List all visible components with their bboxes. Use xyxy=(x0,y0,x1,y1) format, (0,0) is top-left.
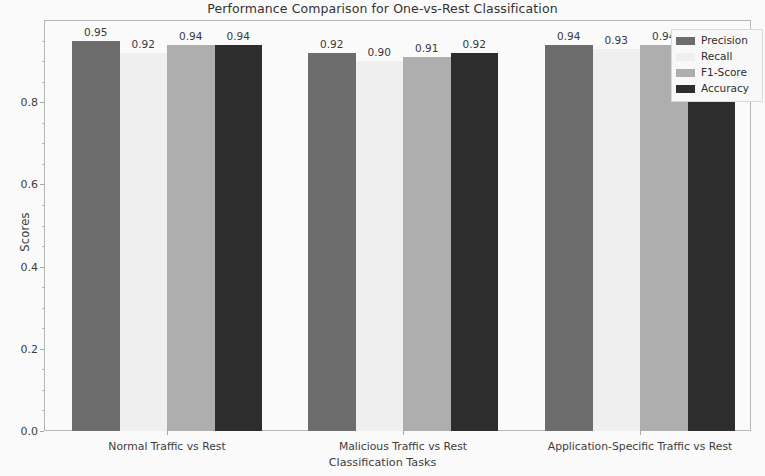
x-axis-tick-label: Normal Traffic vs Rest xyxy=(108,440,225,453)
legend-item[interactable]: Accuracy xyxy=(676,81,758,96)
legend-swatch-icon xyxy=(676,53,695,61)
bar xyxy=(451,53,499,431)
y-axis-tick-label: 0.6 xyxy=(0,178,38,191)
legend-item[interactable]: Precision xyxy=(676,33,758,48)
y-axis-tick-mark xyxy=(40,431,44,432)
bar xyxy=(167,45,215,431)
bar-value-label: 0.93 xyxy=(605,34,628,46)
x-axis-tick-label: Malicious Traffic vs Rest xyxy=(339,440,467,453)
bar xyxy=(403,57,451,431)
x-axis-tick-label: Application-Specific Traffic vs Rest xyxy=(548,440,733,453)
x-axis-label: Classification Tasks xyxy=(0,456,765,469)
chart-figure: Performance Comparison for One-vs-Rest C… xyxy=(0,0,765,476)
x-axis-tick-mark xyxy=(640,431,641,435)
bar-value-label: 0.92 xyxy=(132,38,155,50)
bar xyxy=(640,45,688,431)
bar xyxy=(545,45,593,431)
legend-label: Precision xyxy=(701,35,748,46)
legend-label: Recall xyxy=(701,51,732,62)
bar xyxy=(593,49,641,431)
bar xyxy=(72,41,120,431)
plot-area: 0.950.920.940.940.920.900.910.920.940.93… xyxy=(44,20,751,431)
x-axis-tick-mark xyxy=(403,431,404,435)
legend-label: Accuracy xyxy=(701,83,749,94)
legend-swatch-icon xyxy=(676,85,695,93)
bar-value-label: 0.94 xyxy=(557,30,580,42)
bar xyxy=(688,45,736,431)
bar-value-label: 0.92 xyxy=(320,38,343,50)
legend-label: F1-Score xyxy=(701,67,747,78)
bar-value-label: 0.95 xyxy=(84,26,107,38)
bar-value-label: 0.91 xyxy=(415,42,438,54)
bar xyxy=(120,53,168,431)
x-axis-tick-mark xyxy=(167,431,168,435)
y-axis-tick-label: 0.8 xyxy=(0,96,38,109)
y-axis-tick-label: 0.2 xyxy=(0,342,38,355)
bar xyxy=(356,61,404,431)
y-axis-label: Scores xyxy=(18,197,32,267)
legend-item[interactable]: F1-Score xyxy=(676,65,758,80)
bar-value-label: 0.94 xyxy=(179,30,202,42)
bar xyxy=(215,45,263,431)
bar xyxy=(308,53,356,431)
bar-value-label: 0.94 xyxy=(227,30,250,42)
bar-value-label: 0.92 xyxy=(463,38,486,50)
chart-legend: PrecisionRecallF1-ScoreAccuracy xyxy=(671,29,763,102)
bar-value-label: 0.90 xyxy=(368,46,391,58)
legend-item[interactable]: Recall xyxy=(676,49,758,64)
legend-swatch-icon xyxy=(676,37,695,45)
chart-title: Performance Comparison for One-vs-Rest C… xyxy=(0,1,765,16)
y-axis-tick-label: 0.0 xyxy=(0,425,38,438)
legend-swatch-icon xyxy=(676,69,695,77)
